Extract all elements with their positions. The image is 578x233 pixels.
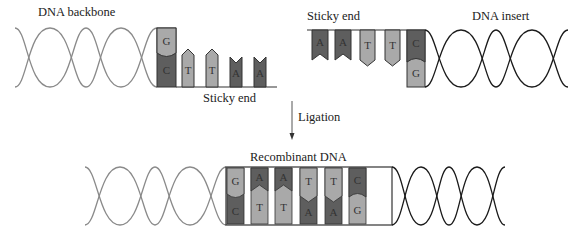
base-t: T — [330, 175, 337, 187]
base-a: A — [256, 67, 264, 79]
base-t: T — [280, 201, 287, 213]
insert-paired-base: C G — [407, 30, 425, 87]
recombinant-backbone-helix — [85, 167, 226, 225]
base-a: A — [256, 171, 264, 183]
base-t: T — [389, 39, 396, 51]
sticky-end-right-label: Sticky end — [307, 9, 361, 23]
base-c: C — [163, 64, 170, 76]
base-a: A — [232, 67, 240, 79]
ligation-label: Ligation — [298, 110, 341, 124]
base-t: T — [256, 201, 263, 213]
base-t: T — [209, 64, 216, 76]
base-a: A — [305, 206, 313, 218]
insert-helix — [425, 30, 568, 87]
base-c: C — [232, 205, 239, 217]
sticky-end-left-label: Sticky end — [203, 91, 257, 105]
backbone-paired-base: G C — [157, 28, 176, 87]
base-t: T — [185, 64, 192, 76]
base-t: T — [305, 175, 312, 187]
base-g: G — [163, 35, 171, 47]
dna-backbone-fragment: DNA backbone G C T T A A Sticky end — [15, 5, 277, 105]
backbone-sticky-bases: T T A A — [182, 49, 266, 87]
base-c: C — [354, 174, 361, 186]
base-c: C — [412, 37, 419, 49]
base-g: G — [232, 175, 240, 187]
dna-backbone-label: DNA backbone — [38, 5, 116, 19]
base-g: G — [412, 67, 420, 79]
base-a: A — [280, 171, 288, 183]
ligation-diagram: DNA backbone G C T T A A Sticky end — [0, 0, 578, 233]
base-t: T — [364, 39, 371, 51]
recombinant-dna: Recombinant DNA G C A T A T T — [85, 150, 505, 225]
dna-insert-fragment: Sticky end DNA insert A A T T C G — [307, 9, 568, 87]
base-a: A — [339, 36, 347, 48]
ligation-arrow: Ligation — [290, 101, 342, 140]
dna-insert-label: DNA insert — [472, 9, 530, 23]
backbone-helix — [15, 28, 157, 87]
base-a: A — [330, 206, 338, 218]
insert-sticky-bases: A A T T — [312, 30, 400, 66]
arrow-head-icon — [290, 133, 295, 140]
recombinant-dna-label: Recombinant DNA — [250, 150, 347, 164]
base-a: A — [316, 36, 324, 48]
base-g: G — [354, 204, 362, 216]
